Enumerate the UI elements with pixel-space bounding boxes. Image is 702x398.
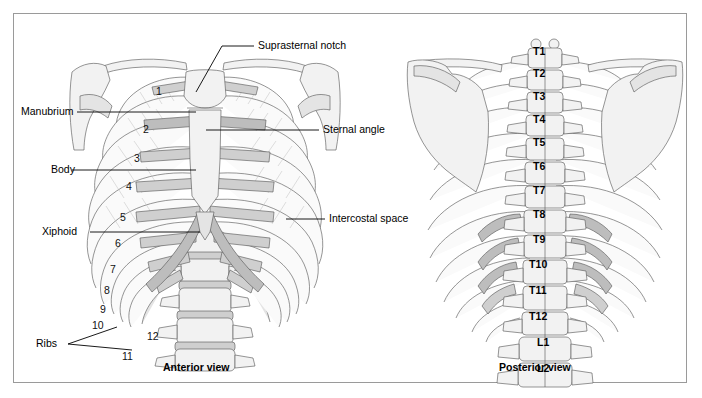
vertebra-label-t2: T2 <box>533 68 545 79</box>
anatomy-figure: Suprasternal notch Manubrium Sternal ang… <box>0 0 702 398</box>
vertebra-label-t9: T9 <box>533 234 545 245</box>
rib-number-10: 10 <box>92 320 104 331</box>
vertebra-label-t10: T10 <box>529 259 547 270</box>
vertebra-label-t5: T5 <box>533 137 545 148</box>
anterior-skeleton <box>70 59 340 371</box>
rib-number-6: 6 <box>115 238 121 249</box>
label-manubrium: Manubrium <box>21 106 74 117</box>
label-sternal-angle: Sternal angle <box>323 124 385 135</box>
rib-number-11: 11 <box>122 351 133 362</box>
vertebra-label-t8: T8 <box>533 209 545 220</box>
label-xiphoid: Xiphoid <box>42 226 77 237</box>
rib-number-7: 7 <box>110 264 116 275</box>
vertebra-label-t11: T11 <box>529 285 547 296</box>
skeleton-illustration <box>0 0 702 398</box>
vertebra-label-t4: T4 <box>533 114 545 125</box>
rib-number-9: 9 <box>100 304 106 315</box>
vertebra-label-l1: L1 <box>537 337 549 348</box>
vertebra-label-t12: T12 <box>529 311 547 322</box>
label-intercostal-space: Intercostal space <box>329 213 408 224</box>
rib-number-8: 8 <box>104 285 110 296</box>
rib-number-3: 3 <box>134 153 140 164</box>
vertebra-label-t7: T7 <box>533 185 545 196</box>
vertebra-label-t6: T6 <box>533 161 545 172</box>
caption-anterior-view: Anterior view <box>163 362 230 373</box>
rib-number-12: 12 <box>147 331 159 342</box>
label-suprasternal-notch: Suprasternal notch <box>258 40 346 51</box>
rib-number-4: 4 <box>126 181 132 192</box>
vertebra-label-t1: T1 <box>533 46 545 57</box>
rib-number-5: 5 <box>120 212 126 223</box>
caption-posterior-view: Posterior view <box>499 362 571 373</box>
rib-number-2: 2 <box>143 124 149 135</box>
vertebra-label-t3: T3 <box>533 91 545 102</box>
rib-number-1: 1 <box>156 86 162 97</box>
label-ribs: Ribs <box>36 338 57 349</box>
label-body: Body <box>51 164 75 175</box>
